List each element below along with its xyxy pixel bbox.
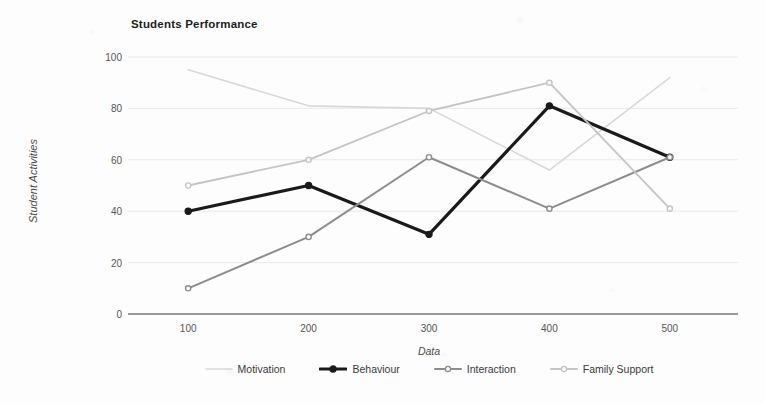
data-point-marker: [306, 157, 311, 162]
legend-item-family-support[interactable]: Family Support: [550, 363, 654, 375]
data-point-marker: [185, 208, 191, 214]
legend-label: Interaction: [467, 363, 516, 375]
series-lines: [185, 70, 673, 291]
data-point-marker: [426, 108, 431, 113]
data-point-marker: [426, 155, 431, 160]
legend-swatch-icon: [550, 363, 578, 375]
chart-container: Students Performance Student Activities …: [0, 0, 765, 403]
data-point-marker: [546, 103, 552, 109]
x-tick-label: 300: [399, 323, 459, 334]
legend-swatch-icon: [434, 363, 462, 375]
legend-swatch-icon: [319, 363, 347, 375]
plot-area: [0, 0, 765, 403]
legend-label: Motivation: [238, 363, 286, 375]
data-point-marker: [186, 183, 191, 188]
x-tick-label: 200: [279, 323, 339, 334]
x-tick-label: 100: [158, 323, 218, 334]
data-point-marker: [547, 206, 552, 211]
data-point-marker: [186, 286, 191, 291]
x-tick-label: 400: [519, 323, 579, 334]
legend-swatch-icon: [205, 363, 233, 375]
series-line-family-support: [188, 83, 670, 209]
data-point-marker: [306, 234, 311, 239]
data-point-marker: [306, 182, 312, 188]
data-point-marker: [426, 231, 432, 237]
legend-item-behaviour[interactable]: Behaviour: [319, 363, 399, 375]
legend-label: Behaviour: [352, 363, 399, 375]
legend-item-motivation[interactable]: Motivation: [205, 363, 286, 375]
legend-label: Family Support: [583, 363, 654, 375]
chart-legend: MotivationBehaviourInteractionFamily Sup…: [128, 363, 730, 375]
data-point-marker: [547, 80, 552, 85]
series-line-interaction: [188, 157, 670, 288]
x-tick-label: 500: [640, 323, 700, 334]
data-point-marker: [667, 206, 672, 211]
data-point-marker: [667, 155, 672, 160]
legend-item-interaction[interactable]: Interaction: [434, 363, 516, 375]
x-axis-title: Data: [128, 345, 730, 357]
